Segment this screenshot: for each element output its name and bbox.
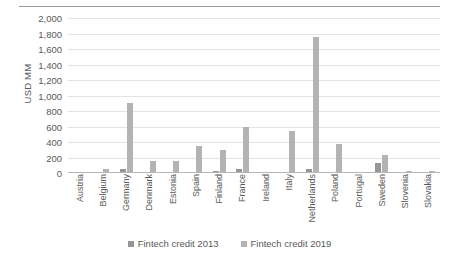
x-tick: Netherlands bbox=[301, 174, 324, 230]
x-tick-label: Portugal bbox=[354, 174, 363, 208]
x-axis-line bbox=[68, 172, 440, 173]
x-tick: Austria bbox=[68, 174, 91, 230]
bar-group bbox=[347, 18, 370, 173]
x-tick: Slovakia bbox=[417, 174, 440, 230]
x-tick: Sweden bbox=[370, 174, 393, 230]
bar bbox=[313, 37, 319, 173]
x-tick: Ireland bbox=[254, 174, 277, 230]
x-tick: Poland bbox=[324, 174, 347, 230]
bar-group bbox=[138, 18, 161, 173]
legend-item[interactable]: Fintech credit 2013 bbox=[128, 238, 219, 249]
x-tick-label: Slovakia bbox=[424, 174, 433, 208]
y-tick-label: 1,000 bbox=[38, 90, 62, 101]
y-tick-label: 1,400 bbox=[38, 59, 62, 70]
x-tick: Denmark bbox=[138, 174, 161, 230]
bar bbox=[196, 146, 202, 173]
x-tick-label: Slovenia bbox=[401, 174, 410, 209]
bar bbox=[127, 103, 133, 173]
x-tick-label: Austria bbox=[75, 174, 84, 202]
x-tick-label: Denmark bbox=[145, 174, 154, 211]
x-tick-label: Spain bbox=[191, 174, 200, 197]
bar-group bbox=[91, 18, 114, 173]
fintech-credit-bar-chart: USD MM 02004006008001,0001,2001,4001,600… bbox=[0, 0, 459, 267]
y-tick-label: 200 bbox=[46, 152, 62, 163]
bar-group bbox=[277, 18, 300, 173]
bar-group bbox=[254, 18, 277, 173]
y-tick-label: 800 bbox=[46, 106, 62, 117]
bar-group bbox=[417, 18, 440, 173]
x-tick: Finland bbox=[208, 174, 231, 230]
x-tick-label: Sweden bbox=[377, 174, 386, 207]
bar bbox=[243, 127, 249, 174]
x-tick-label: Poland bbox=[331, 174, 340, 202]
x-tick-label: Netherlands bbox=[308, 174, 317, 223]
x-tick: Spain bbox=[184, 174, 207, 230]
x-tick: Estonia bbox=[161, 174, 184, 230]
y-axis-tick-labels: 02004006008001,0001,2001,4001,6001,8002,… bbox=[18, 18, 64, 173]
legend-item[interactable]: Fintech credit 2019 bbox=[241, 238, 332, 249]
x-tick-label: Ireland bbox=[261, 174, 270, 202]
y-tick-label: 1,800 bbox=[38, 28, 62, 39]
x-tick: Germany bbox=[115, 174, 138, 230]
bar-group bbox=[68, 18, 91, 173]
y-tick-label: 0 bbox=[57, 168, 62, 179]
bar-group bbox=[161, 18, 184, 173]
bar bbox=[336, 144, 342, 173]
x-tick: France bbox=[231, 174, 254, 230]
y-tick-label: 2,000 bbox=[38, 13, 62, 24]
bar-group bbox=[115, 18, 138, 173]
bar-group bbox=[370, 18, 393, 173]
legend-label: Fintech credit 2013 bbox=[138, 238, 219, 249]
legend-label: Fintech credit 2019 bbox=[251, 238, 332, 249]
legend-swatch-icon bbox=[128, 241, 134, 247]
x-tick: Portugal bbox=[347, 174, 370, 230]
x-tick: Slovenia bbox=[394, 174, 417, 230]
x-tick-label: France bbox=[238, 174, 247, 202]
bar-group bbox=[301, 18, 324, 173]
legend-swatch-icon bbox=[241, 241, 247, 247]
y-tick-label: 600 bbox=[46, 121, 62, 132]
x-tick-label: Germany bbox=[122, 174, 131, 211]
bar-groups bbox=[68, 18, 440, 173]
bar-group bbox=[231, 18, 254, 173]
bar bbox=[220, 150, 226, 173]
y-tick-label: 400 bbox=[46, 137, 62, 148]
bar-group bbox=[394, 18, 417, 173]
y-tick-label: 1,600 bbox=[38, 44, 62, 55]
x-tick: Belgium bbox=[91, 174, 114, 230]
bar-group bbox=[324, 18, 347, 173]
chart-legend: Fintech credit 2013Fintech credit 2019 bbox=[0, 238, 459, 249]
bar bbox=[289, 131, 295, 173]
plot-area bbox=[68, 18, 440, 173]
x-tick: Italy bbox=[277, 174, 300, 230]
x-tick-label: Italy bbox=[284, 174, 293, 191]
bar-group bbox=[208, 18, 231, 173]
header-divider bbox=[19, 6, 440, 7]
bar bbox=[382, 155, 388, 173]
x-tick-label: Finland bbox=[215, 174, 224, 204]
x-axis-category-labels: AustriaBelgiumGermanyDenmarkEstoniaSpain… bbox=[68, 174, 440, 230]
y-tick-label: 1,200 bbox=[38, 75, 62, 86]
x-tick-label: Estonia bbox=[168, 174, 177, 204]
x-tick-label: Belgium bbox=[98, 174, 107, 207]
bar-group bbox=[184, 18, 207, 173]
